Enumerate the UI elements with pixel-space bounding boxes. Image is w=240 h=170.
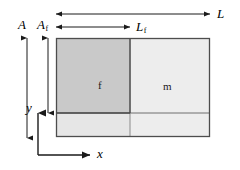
- label-fiber-length: Lf: [136, 20, 146, 33]
- label-fiber-area: Af: [37, 18, 48, 31]
- region-lower-strip-left-fill: [56, 113, 130, 137]
- label-region-fiber: f: [98, 80, 102, 91]
- diagram-canvas: L Lf A Af f m x y: [0, 0, 240, 170]
- label-overall-area: A: [18, 18, 26, 31]
- diagram-vector-layer: [0, 0, 240, 170]
- region-fiber-fill: [56, 38, 130, 113]
- label-y-axis: y: [26, 101, 32, 114]
- label-x-axis: x: [97, 147, 103, 160]
- label-region-matrix: m: [163, 81, 172, 92]
- label-overall-length: L: [217, 7, 224, 20]
